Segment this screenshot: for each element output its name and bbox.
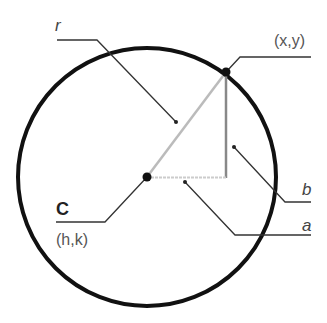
leader-dot-r — [174, 120, 178, 124]
leader-dot-b — [232, 145, 236, 149]
radius-line — [147, 72, 226, 177]
leader-line-center — [56, 177, 147, 222]
leader-dot-a — [183, 180, 187, 184]
point-xy-dot — [222, 68, 231, 77]
center-label: C — [56, 200, 69, 218]
leader-line-xy — [227, 57, 311, 71]
vertical-leg-label: b — [302, 181, 311, 198]
point-label: (x,y) — [274, 33, 305, 49]
radius-label: r — [55, 17, 61, 34]
center-coords-label: (h,k) — [56, 232, 88, 248]
horizontal-leg-label: a — [302, 217, 311, 234]
center-dot — [143, 173, 152, 182]
leader-line-a — [185, 182, 311, 235]
